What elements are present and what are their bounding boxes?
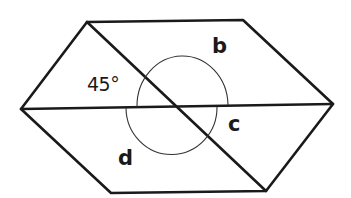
angle-d-label: d [118,148,133,169]
angle-b-label: b [212,36,227,57]
angle-c-label: c [228,114,240,135]
angle-diagram [0,0,351,198]
angle-45-label: 45° [87,75,119,94]
